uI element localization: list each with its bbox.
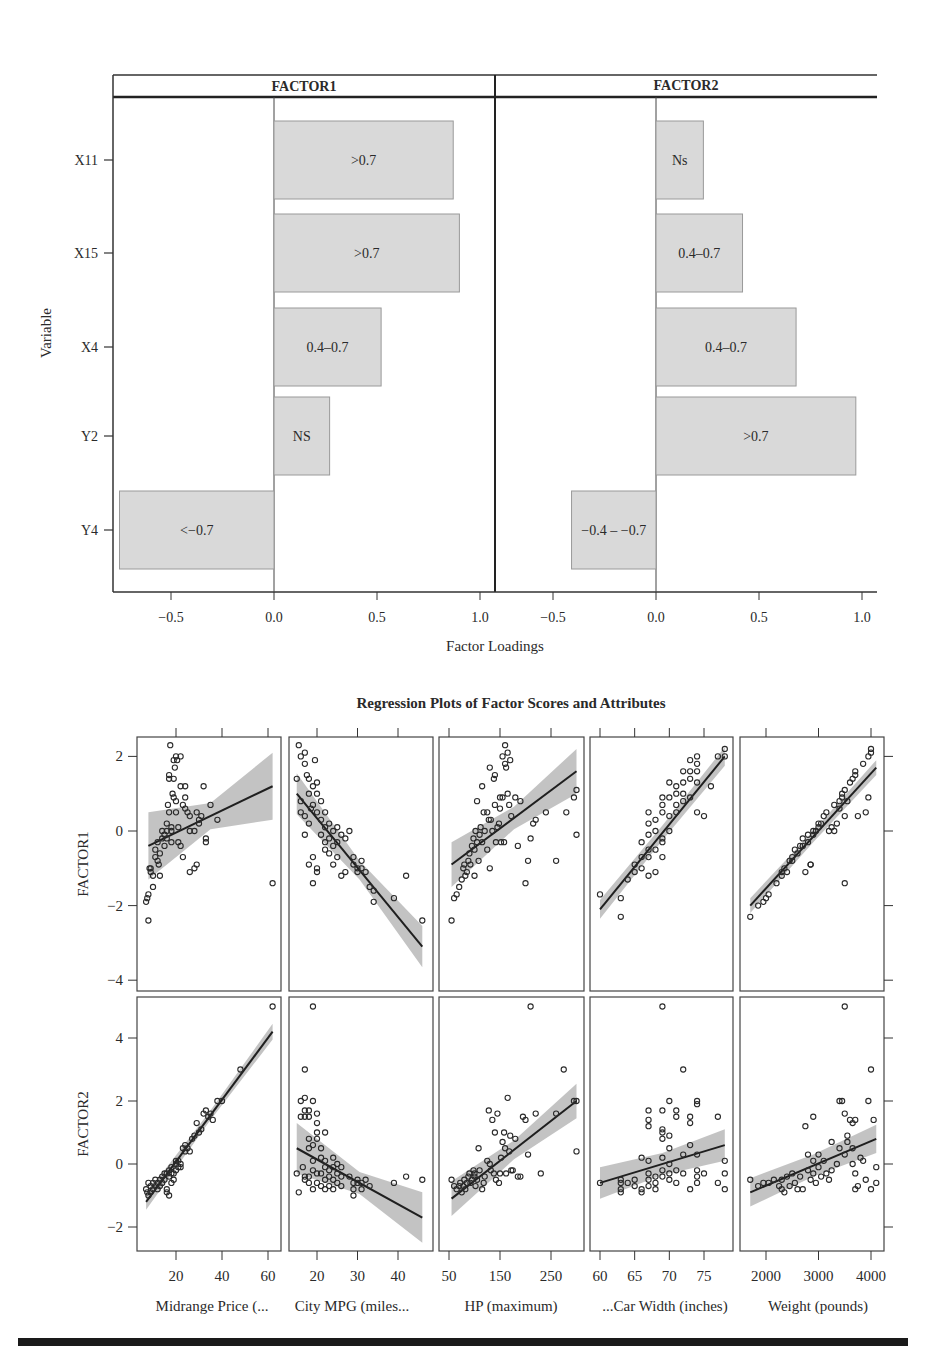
data-point [347, 828, 352, 833]
data-point [660, 802, 665, 807]
y-tick-label: −4 [107, 972, 123, 988]
y-tick-label: 2 [116, 748, 124, 764]
data-point [674, 1180, 679, 1185]
panel-border [740, 737, 884, 991]
data-point [302, 1095, 307, 1100]
regression-panel: 50150250 [439, 997, 584, 1284]
data-point [150, 884, 155, 889]
data-point [646, 1108, 651, 1113]
data-point [487, 765, 492, 770]
data-point [503, 743, 508, 748]
data-point [813, 1180, 818, 1185]
data-point [871, 1117, 876, 1122]
factor-loadings-chart: FACTOR1 FACTOR2 >0.7>0.70.4–0.7NS<−0.7Ns… [38, 75, 877, 654]
data-point [270, 881, 275, 886]
y-tick-label: 4 [116, 1030, 124, 1046]
data-point [874, 1165, 879, 1170]
x-tick-label: 1.0 [471, 610, 489, 625]
col-label-car-width: ...Car Width (inches) [602, 1298, 727, 1315]
data-point [312, 758, 317, 763]
regression-panel: 203040 [289, 997, 433, 1284]
data-point [310, 855, 315, 860]
data-point [452, 896, 457, 901]
data-point [495, 1111, 500, 1116]
data-point [314, 1120, 319, 1125]
data-point [533, 1111, 538, 1116]
data-point [808, 862, 813, 867]
x-tick-label: 150 [489, 1268, 512, 1284]
data-point [314, 1130, 319, 1135]
x-tick-label: 0.5 [750, 610, 768, 625]
data-point [826, 1177, 831, 1182]
bar-label: Ns [672, 153, 688, 168]
data-point [688, 1114, 693, 1119]
data-point [805, 1152, 810, 1157]
data-point [715, 1180, 720, 1185]
data-point [653, 817, 658, 822]
data-point [306, 1180, 311, 1185]
y-tick-label: −2 [107, 898, 123, 914]
bar-label: >0.7 [354, 246, 379, 261]
data-point [653, 1187, 658, 1192]
data-point [525, 858, 530, 863]
data-point [343, 869, 348, 874]
data-point [694, 1174, 699, 1179]
data-point [492, 1130, 497, 1135]
data-point [525, 1152, 530, 1157]
data-point [528, 1004, 533, 1009]
data-point [803, 869, 808, 874]
x-tick-label: 20 [310, 1268, 325, 1284]
row-label-factor2: FACTOR2 [75, 1091, 91, 1156]
data-point [501, 1130, 506, 1135]
data-point [493, 1177, 498, 1182]
data-point [708, 784, 713, 789]
data-point [457, 884, 462, 889]
data-point [646, 1183, 651, 1188]
data-point [850, 1161, 855, 1166]
data-point [834, 821, 839, 826]
regression-line [600, 756, 725, 909]
col-label-hp: HP (maximum) [464, 1298, 557, 1315]
data-point [497, 806, 502, 811]
col-label-weight: Weight (pounds) [768, 1298, 868, 1315]
data-point [496, 1180, 501, 1185]
data-point [829, 1139, 834, 1144]
data-point [803, 1124, 808, 1129]
data-point [505, 750, 510, 755]
col-label-city-mpg: City MPG (miles... [295, 1298, 410, 1315]
data-point [404, 1174, 409, 1179]
bar-label: NS [293, 429, 311, 444]
x-tick-label: 3000 [804, 1268, 834, 1284]
data-point [674, 784, 679, 789]
panel-strip-factor2: FACTOR2 [654, 78, 719, 93]
data-point [323, 1130, 328, 1135]
data-point [694, 1102, 699, 1107]
data-point [842, 813, 847, 818]
data-point [722, 1171, 727, 1176]
data-point [824, 810, 829, 815]
data-point [694, 761, 699, 766]
regression-line [750, 768, 876, 906]
data-point [486, 1108, 491, 1113]
data-point [371, 899, 376, 904]
data-point [314, 1111, 319, 1116]
data-point [318, 799, 323, 804]
data-point [404, 873, 409, 878]
data-point [681, 791, 686, 796]
bar-label: <−0.7 [180, 523, 213, 538]
x-tick-label: 40 [391, 1268, 406, 1284]
data-point [554, 858, 559, 863]
data-point [302, 750, 307, 755]
regression-panel: 60657075 [590, 997, 733, 1284]
x-tick-label: 30 [350, 1268, 365, 1284]
data-point [310, 1004, 315, 1009]
y-tick-label: X15 [74, 246, 98, 261]
data-point [842, 881, 847, 886]
x-tick-label: 250 [540, 1268, 563, 1284]
data-point [167, 772, 172, 777]
data-point [528, 836, 533, 841]
data-point [681, 769, 686, 774]
data-point [660, 855, 665, 860]
data-point [667, 1177, 672, 1182]
data-point [660, 1004, 665, 1009]
